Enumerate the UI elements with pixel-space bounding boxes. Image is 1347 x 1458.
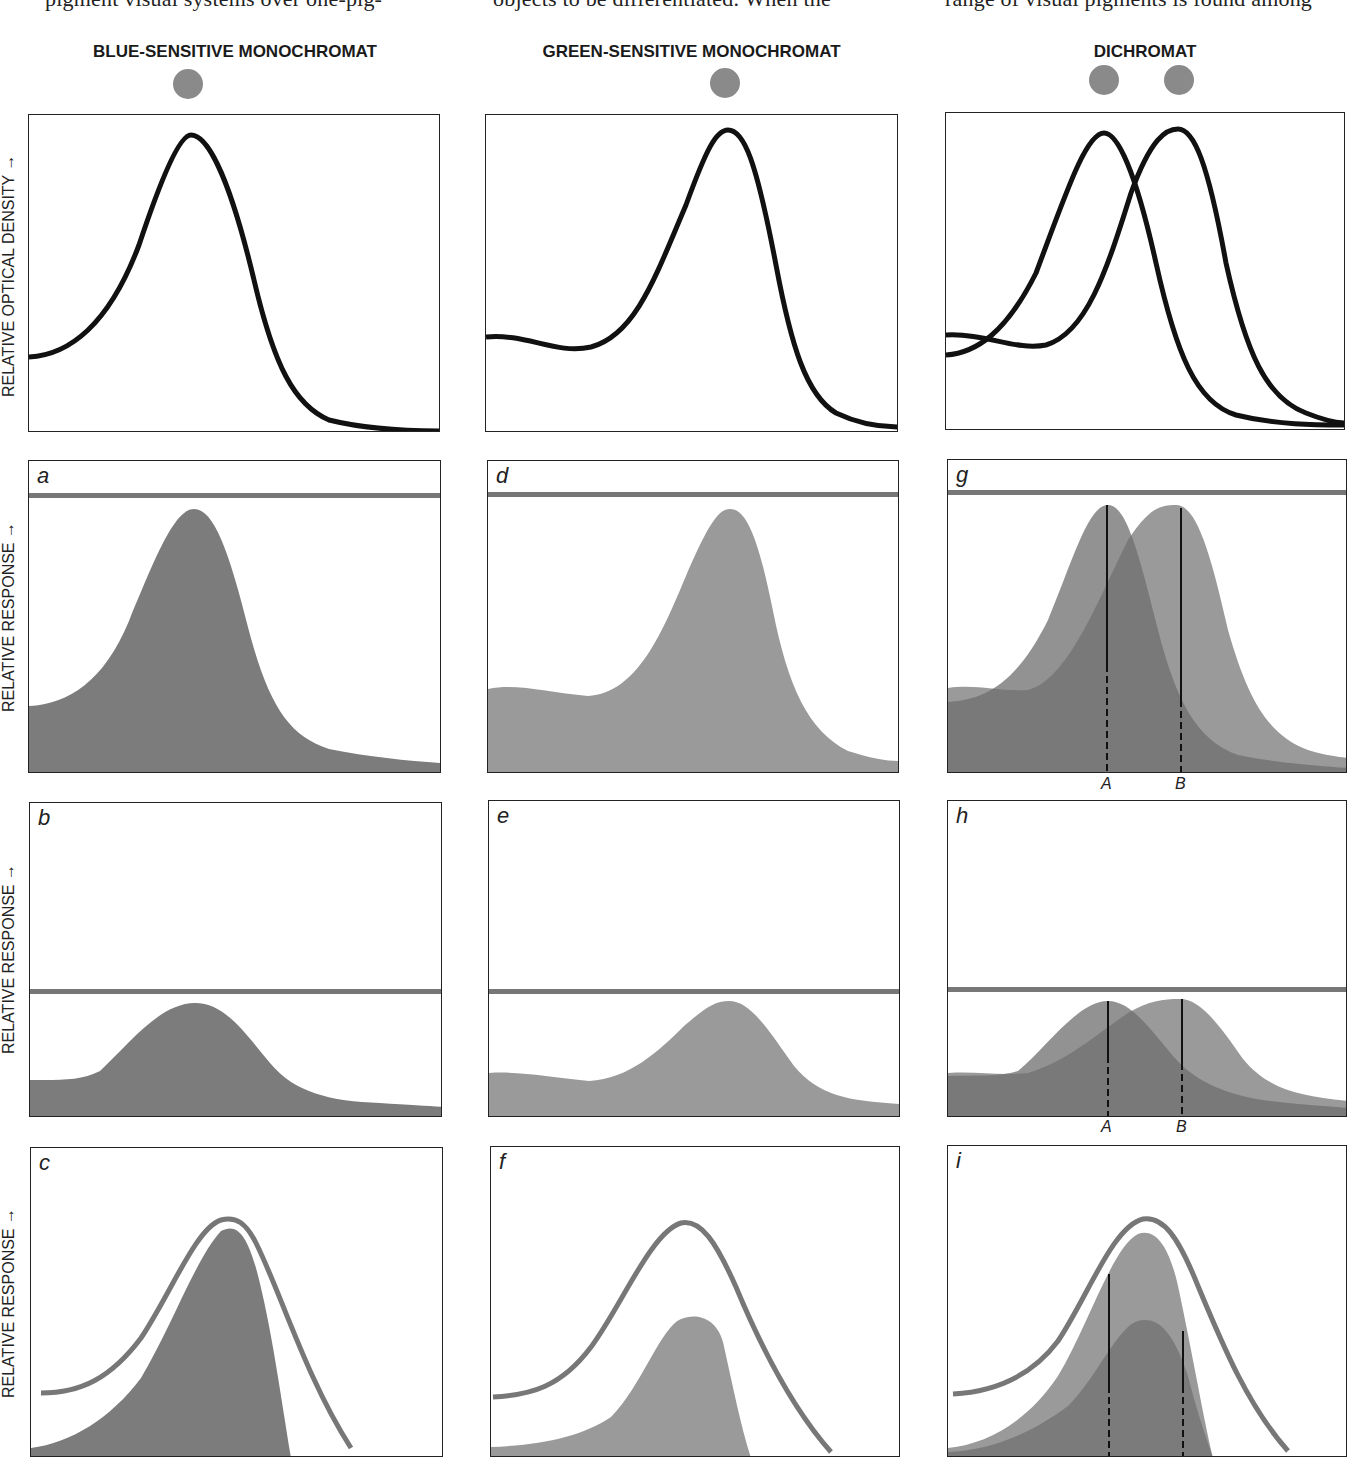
- panel-g-graphic: [948, 460, 1347, 773]
- green-absorption-curve: [486, 115, 898, 432]
- blue-absorption-curve: [29, 115, 440, 432]
- panel-e: e: [488, 800, 900, 1117]
- panel-blue-absorption: [28, 114, 440, 432]
- panel-e-graphic: [489, 801, 900, 1117]
- panel-i: i: [947, 1145, 1347, 1457]
- panel-a-graphic: [29, 461, 441, 773]
- panel-f: f: [490, 1146, 900, 1457]
- y-axis-label-optical-density: RELATIVE OPTICAL DENSITY →: [0, 118, 28, 433]
- panel-dichromat-absorption: [945, 112, 1345, 430]
- dichromat-absorption-curves: [946, 113, 1345, 430]
- panel-f-graphic: [491, 1147, 900, 1457]
- y-axis-label-response-2: RELATIVE RESPONSE →: [0, 804, 28, 1114]
- panel-g: g: [947, 459, 1347, 773]
- y-axis-label-response-3: RELATIVE RESPONSE →: [0, 1148, 28, 1458]
- panel-d: d: [487, 460, 899, 773]
- dichromat-pigment-dot-b: [1164, 65, 1194, 95]
- marker-b-bottom: B: [1176, 1118, 1187, 1136]
- column-title-green: GREEN-SENSITIVE MONOCHROMAT: [485, 42, 898, 62]
- blue-pigment-dot: [173, 69, 203, 99]
- column-title-dichromat: DICHROMAT: [945, 42, 1345, 62]
- panel-h: h: [947, 800, 1347, 1117]
- panel-a: a: [28, 460, 441, 773]
- y-axis-label-response-1: RELATIVE RESPONSE →: [0, 462, 28, 772]
- panel-b: b: [29, 802, 442, 1117]
- body-text-col1: pigment visual systems over one-pig-: [45, 0, 382, 12]
- marker-b-top: B: [1175, 775, 1186, 793]
- panel-green-absorption: [485, 114, 898, 432]
- green-pigment-dot: [710, 68, 740, 98]
- marker-a-top: A: [1101, 775, 1112, 793]
- panel-d-graphic: [488, 461, 899, 773]
- marker-a-bottom: A: [1101, 1118, 1112, 1136]
- panel-c-graphic: [31, 1148, 443, 1457]
- panel-i-graphic: [948, 1146, 1347, 1457]
- panel-b-graphic: [30, 803, 442, 1117]
- panel-c: c: [30, 1147, 443, 1457]
- dichromat-pigment-dot-a: [1089, 65, 1119, 95]
- body-text-col2: objects to be differentiated. When the: [493, 0, 831, 12]
- column-title-blue: BLUE-SENSITIVE MONOCHROMAT: [30, 42, 440, 62]
- panel-h-graphic: [948, 801, 1347, 1117]
- body-text-col3: range of visual pigments is found among: [945, 0, 1312, 12]
